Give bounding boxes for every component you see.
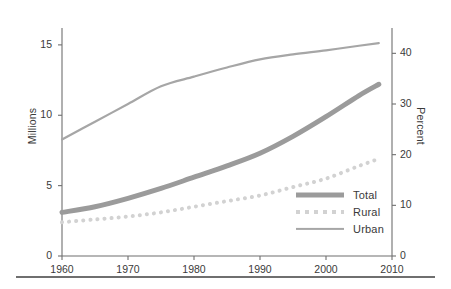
right-tick-label: 20 [400,148,430,160]
legend-label-rural: Rural [353,206,380,218]
bottom-tick-label: 1980 [174,263,214,275]
bottom-tick-label: 1960 [42,263,82,275]
left-tick-label: 15 [22,38,52,50]
left-axis-ticks [58,45,62,256]
right-tick-label: 10 [400,198,430,210]
legend-swatch-urban-icon [296,223,344,235]
legend-item-total: Total [296,186,384,203]
bottom-tick-label: 2010 [372,263,412,275]
right-tick-label: 40 [400,46,430,58]
chart-figure: Millions Percent 051015 010203040 196019… [0,0,451,289]
legend-label-urban: Urban [353,223,384,235]
line-chart-canvas [0,0,451,289]
left-tick-label: 0 [22,249,52,261]
legend-swatch-rural-icon [296,206,344,218]
legend-item-rural: Rural [296,203,384,220]
bottom-tick-label: 1990 [240,263,280,275]
legend-label-total: Total [353,189,377,201]
chart-legend: Total Rural Urban [296,186,384,237]
right-tick-label: 30 [400,97,430,109]
bottom-divider-rule [16,276,435,278]
legend-item-urban: Urban [296,220,384,237]
bottom-tick-label: 2000 [306,263,346,275]
right-axis-ticks [392,53,396,256]
bottom-tick-label: 1970 [108,263,148,275]
series-line-urban [62,43,379,139]
bottom-axis-ticks [62,256,392,260]
legend-swatch-total-icon [296,189,344,201]
left-tick-label: 5 [22,179,52,191]
left-tick-label: 10 [22,108,52,120]
left-axis-title: Millions [26,88,38,164]
right-tick-label: 0 [400,249,430,261]
